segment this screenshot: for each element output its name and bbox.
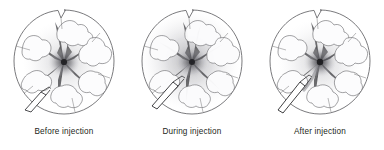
fundus-field-during bbox=[128, 2, 256, 124]
panel-after-injection: After injection bbox=[256, 0, 384, 150]
panel-after-illustration bbox=[256, 2, 384, 124]
injection-sequence-figure: Before injection bbox=[0, 0, 384, 150]
fundus-field-before bbox=[0, 2, 128, 124]
panel-before-injection: Before injection bbox=[0, 0, 128, 150]
panel-after-caption: After injection bbox=[256, 126, 384, 137]
fundus-field-after bbox=[256, 2, 384, 124]
panel-during-caption: During injection bbox=[128, 126, 256, 137]
panel-during-injection: During injection bbox=[128, 0, 256, 150]
panel-before-illustration bbox=[0, 2, 128, 124]
panel-during-illustration bbox=[128, 2, 256, 124]
panel-before-caption: Before injection bbox=[0, 126, 128, 137]
